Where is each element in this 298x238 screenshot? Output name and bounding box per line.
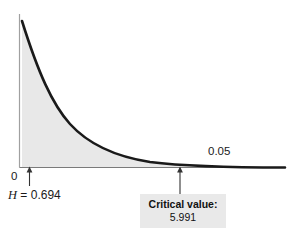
test-statistic-label: H = 0.694	[8, 189, 61, 202]
critical-value-callout: Critical value: 5.991	[140, 194, 226, 228]
origin-label: 0	[11, 171, 17, 183]
test-statistic-equals: =	[17, 188, 31, 202]
critical-value-marker	[177, 167, 183, 195]
critical-value-number: 5.991	[170, 211, 196, 225]
critical-value-title: Critical value:	[149, 198, 218, 211]
shaded-area-under-curve	[22, 21, 285, 168]
chi-square-critical-value-figure: 0 0.05 H = 0.694 Critical value: 5.991	[0, 0, 298, 238]
tail-area-label: 0.05	[208, 146, 230, 158]
test-statistic-variable: H	[8, 188, 17, 202]
test-statistic-marker	[27, 167, 33, 187]
test-statistic-value: 0.694	[31, 188, 61, 202]
